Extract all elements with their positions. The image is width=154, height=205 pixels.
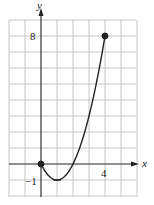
x-axis-label: x (141, 157, 147, 169)
y-tick-label-8: 8 (30, 30, 36, 42)
endpoint-dot (102, 33, 108, 39)
grid (9, 20, 137, 197)
endpoint-dot (38, 161, 44, 167)
y-axis-label: y (36, 0, 42, 11)
x-axis-arrow-icon (131, 162, 139, 167)
y-tick-label-neg1: −1 (25, 175, 37, 187)
function-graph: y x 8 4 −1 (0, 0, 154, 205)
x-tick-label-4: 4 (101, 167, 107, 179)
